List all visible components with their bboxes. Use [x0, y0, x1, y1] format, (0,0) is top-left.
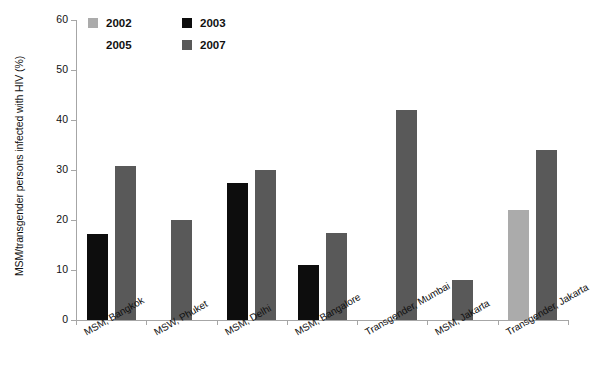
bar-2007-msm-delhi[interactable]	[255, 170, 276, 320]
x-tick	[146, 320, 147, 325]
y-tick-label: 60	[36, 19, 68, 20]
y-tick-label: 20	[36, 219, 68, 220]
x-tick	[76, 320, 77, 325]
bar-2007-msm-bangkok[interactable]	[115, 166, 136, 320]
bar-2003-msm-bangkok[interactable]	[87, 234, 108, 321]
x-tick	[427, 320, 428, 325]
y-tick-label: 50	[36, 69, 68, 70]
y-axis-line	[76, 20, 77, 320]
plot-area: 0102030405060	[76, 20, 568, 320]
y-tick	[71, 270, 76, 271]
bar-2002-transgender-jakarta[interactable]	[508, 210, 529, 320]
y-tick	[71, 20, 76, 21]
bar-2003-msm-bangalore[interactable]	[298, 265, 319, 320]
y-tick	[71, 220, 76, 221]
x-tick	[498, 320, 499, 325]
bar-2003-msm-delhi[interactable]	[227, 183, 248, 320]
y-tick-label: 10	[36, 269, 68, 270]
y-axis-title: MSM/transgender persons infected with HI…	[13, 11, 25, 321]
bar-2007-transgender-jakarta[interactable]	[536, 150, 557, 320]
x-tick	[217, 320, 218, 325]
x-tick	[287, 320, 288, 325]
y-tick-label: 40	[36, 119, 68, 120]
y-tick	[71, 70, 76, 71]
y-tick-label: 0	[36, 319, 68, 320]
bar-2007-msw-phuket[interactable]	[171, 220, 192, 320]
y-tick	[71, 170, 76, 171]
y-tick	[71, 120, 76, 121]
x-tick	[568, 320, 569, 325]
y-tick-label: 30	[36, 169, 68, 170]
bar-2007-transgender-mumbai[interactable]	[396, 110, 417, 320]
x-tick	[357, 320, 358, 325]
